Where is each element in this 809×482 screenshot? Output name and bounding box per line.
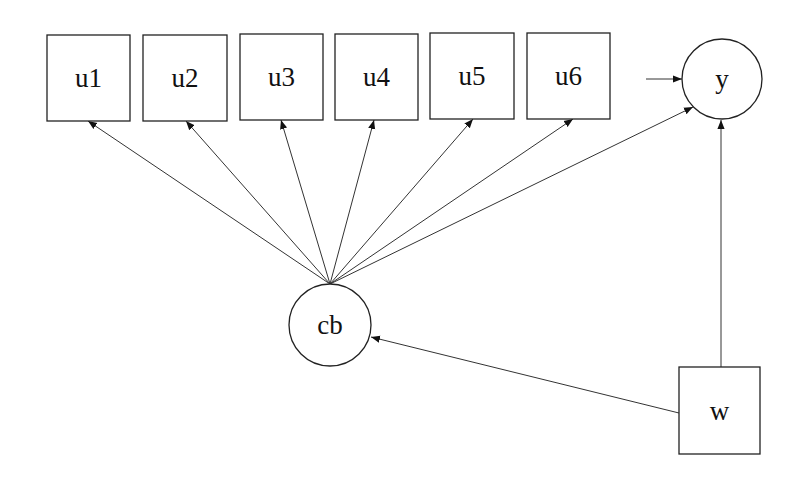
path-diagram-canvas: u1u2u3u4u5u6ycbw — [0, 0, 809, 482]
node-w: w — [679, 367, 760, 454]
node-u5: u5 — [430, 33, 514, 119]
node-u4: u4 — [335, 34, 418, 120]
node-label: y — [715, 64, 729, 94]
node-u3: u3 — [240, 34, 323, 120]
edge-cb-to-u1 — [88, 121, 330, 284]
node-label: u4 — [363, 62, 391, 92]
node-u6: u6 — [527, 33, 610, 119]
edge-cb-to-u3 — [281, 120, 330, 284]
node-label: u1 — [75, 63, 102, 93]
edge-w-to-cb — [371, 337, 679, 413]
node-label: u6 — [555, 61, 582, 91]
edge-cb-to-y — [330, 107, 693, 284]
edges-layer — [88, 79, 721, 413]
edge-cb-to-u2 — [186, 121, 330, 284]
nodes-layer: u1u2u3u4u5u6ycbw — [47, 33, 762, 454]
node-y: y — [682, 39, 762, 119]
node-label: u3 — [268, 62, 295, 92]
edge-cb-to-u4 — [330, 120, 374, 284]
node-label: w — [710, 396, 730, 426]
node-u2: u2 — [143, 35, 227, 121]
node-label: u5 — [459, 61, 486, 91]
node-cb: cb — [289, 284, 371, 366]
node-label: u2 — [172, 63, 199, 93]
node-u1: u1 — [47, 35, 130, 121]
node-label: cb — [317, 310, 342, 340]
